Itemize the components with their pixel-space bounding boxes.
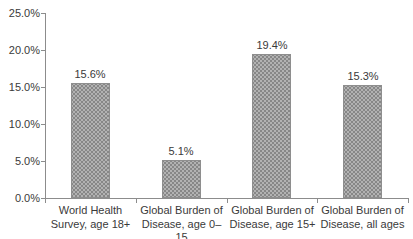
y-axis-tick-label: 10.0%	[0, 118, 40, 131]
x-tick-mark	[408, 198, 409, 203]
y-axis-tick-label: 20.0%	[0, 44, 40, 57]
bar-value-label: 19.4%	[237, 38, 307, 52]
y-tick-mark	[41, 13, 45, 14]
bar	[252, 54, 291, 198]
y-axis-tick-label: 25.0%	[0, 7, 40, 20]
y-tick-mark	[41, 161, 45, 162]
y-tick-mark	[41, 124, 45, 125]
bar	[71, 83, 110, 198]
y-axis-line	[45, 13, 46, 199]
y-axis-tick-label: 15.0%	[0, 81, 40, 94]
y-axis-tick-label: 5.0%	[0, 155, 40, 168]
x-tick-mark	[45, 198, 46, 203]
bar-chart: 0.0%5.0%10.0%15.0%20.0%25.0%15.6%World H…	[0, 0, 413, 239]
bar	[162, 160, 201, 198]
bar-value-label: 5.1%	[146, 144, 216, 158]
bar	[343, 85, 382, 198]
x-axis-category-label: Global Burden of Disease, age 0–15	[136, 204, 227, 239]
bar-value-label: 15.6%	[55, 67, 125, 81]
x-axis-category-label: World Health Survey, age 18+	[45, 204, 136, 231]
bar-value-label: 15.3%	[328, 69, 398, 83]
x-tick-mark	[317, 198, 318, 203]
x-tick-mark	[227, 198, 228, 203]
x-axis-category-label: Global Burden of Disease, age 15+	[227, 204, 318, 231]
x-axis-category-label: Global Burden of Disease, all ages	[317, 204, 408, 231]
y-tick-mark	[41, 50, 45, 51]
y-axis-tick-label: 0.0%	[0, 192, 40, 205]
x-tick-mark	[136, 198, 137, 203]
y-tick-mark	[41, 87, 45, 88]
